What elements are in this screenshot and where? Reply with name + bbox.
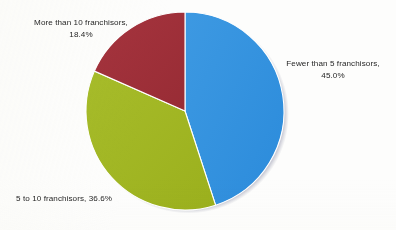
pie-label-more-than-10-value: 18.4% <box>22 29 140 41</box>
pie-label-fewer-than-5-line1: Fewer than 5 franchisors, <box>276 58 390 70</box>
pie-chart-figure: More than 10 franchisors, 18.4% Fewer th… <box>0 0 396 230</box>
pie-label-5-to-10-line1: 5 to 10 franchisors, 36.6% <box>16 193 112 205</box>
pie-label-more-than-10-line1: More than 10 franchisors, <box>22 17 140 29</box>
pie-label-more-than-10: More than 10 franchisors, 18.4% <box>22 17 140 40</box>
pie-label-fewer-than-5-value: 45.0% <box>276 70 390 82</box>
pie-label-fewer-than-5: Fewer than 5 franchisors, 45.0% <box>276 58 390 81</box>
pie-label-5-to-10: 5 to 10 franchisors, 36.6% <box>16 193 112 205</box>
